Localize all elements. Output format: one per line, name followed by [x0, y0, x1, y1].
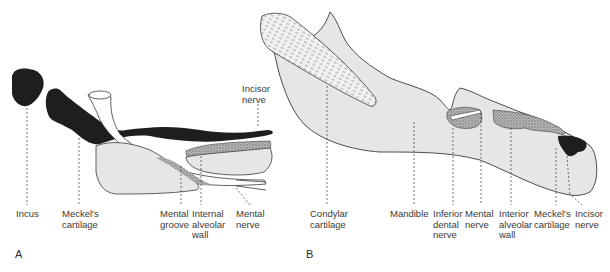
- panel-label-a: A: [15, 248, 22, 260]
- meckels-cartilage-shape: [46, 89, 273, 145]
- label-incisor-nerve-a: Incisor nerve: [242, 84, 270, 105]
- label-mental-groove: Mental groove: [160, 209, 189, 230]
- label-interior-alveolar-wall: Interior alveolar wall: [499, 209, 532, 241]
- label-mental-nerve-a: Mental nerve: [236, 209, 265, 230]
- incus-shape: [12, 68, 44, 106]
- figure-a: [12, 68, 273, 205]
- label-inferior-dental-nerve: Inferior dental nerve: [433, 209, 463, 241]
- label-incus: Incus: [16, 209, 39, 220]
- label-mental-nerve-b: Mental nerve: [465, 209, 494, 230]
- label-mandible: Mandible: [390, 209, 429, 220]
- label-incisor-nerve-b: Incisor nerve: [575, 209, 603, 230]
- label-condylar-cartilage: Condylar cartilage: [310, 209, 348, 230]
- panel-label-b: B: [306, 248, 313, 260]
- label-internal-alveolar-wall: Internal alveolar wall: [192, 209, 225, 241]
- figure-b: [260, 12, 596, 205]
- label-meckels-cartilage-a: Meckel's cartilage: [62, 209, 99, 230]
- label-meckels-cartilage-b: Meckel's cartilage: [534, 209, 571, 230]
